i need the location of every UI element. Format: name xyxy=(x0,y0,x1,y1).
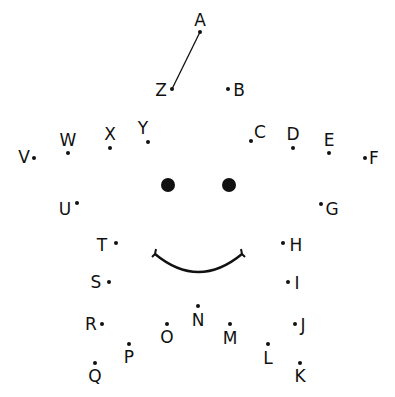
dot-y[interactable] xyxy=(146,140,150,144)
dot-j[interactable] xyxy=(293,322,297,326)
dot-e[interactable] xyxy=(327,151,331,155)
dot-z[interactable] xyxy=(170,87,174,91)
left-eye xyxy=(161,178,175,192)
label-v: V xyxy=(18,149,30,166)
dot-l[interactable] xyxy=(266,342,270,346)
label-a: A xyxy=(194,12,206,29)
label-s: S xyxy=(91,274,102,291)
label-z: Z xyxy=(155,82,167,99)
dot-o[interactable] xyxy=(165,322,169,326)
dot-t[interactable] xyxy=(114,241,118,245)
label-i: I xyxy=(294,275,299,292)
label-e: E xyxy=(324,132,335,149)
dot-c[interactable] xyxy=(249,139,253,143)
dot-x[interactable] xyxy=(108,146,112,150)
dot-b[interactable] xyxy=(226,87,230,91)
dot-n[interactable] xyxy=(196,304,200,308)
dot-g[interactable] xyxy=(319,202,323,206)
label-o: O xyxy=(160,329,173,346)
label-l: L xyxy=(263,350,272,367)
label-k: K xyxy=(294,368,305,385)
dot-h[interactable] xyxy=(281,241,285,245)
label-q: Q xyxy=(88,368,101,385)
label-r: R xyxy=(85,316,97,333)
smile-end-ticks xyxy=(152,249,245,257)
label-b: B xyxy=(233,82,245,99)
label-m: M xyxy=(223,330,238,347)
dot-a[interactable] xyxy=(198,30,202,34)
dot-u[interactable] xyxy=(75,201,79,205)
label-f: F xyxy=(369,150,379,167)
dot-r[interactable] xyxy=(100,322,104,326)
smile-mouth xyxy=(155,254,242,272)
dot-i[interactable] xyxy=(286,280,290,284)
dot-k[interactable] xyxy=(298,361,302,365)
dot-f[interactable] xyxy=(363,156,367,160)
dot-d[interactable] xyxy=(291,146,295,150)
label-x: X xyxy=(104,126,116,143)
label-h: H xyxy=(290,237,303,254)
label-t: T xyxy=(97,237,107,254)
label-u: U xyxy=(59,201,71,218)
label-p: P xyxy=(124,349,134,366)
line-a-to-z xyxy=(172,32,200,89)
dot-p[interactable] xyxy=(127,342,131,346)
puzzle-canvas: ABCDEFGHIJKLMNOPQRSTUVWXYZ xyxy=(0,0,395,397)
label-w: W xyxy=(60,132,77,149)
label-n: N xyxy=(192,312,205,329)
dot-m[interactable] xyxy=(228,322,232,326)
label-c: C xyxy=(254,124,266,141)
label-y: Y xyxy=(138,120,148,137)
right-eye xyxy=(222,178,236,192)
dot-q[interactable] xyxy=(93,361,97,365)
label-j: J xyxy=(300,317,305,334)
label-d: D xyxy=(286,126,299,143)
label-g: G xyxy=(325,201,338,218)
dot-s[interactable] xyxy=(107,280,111,284)
dot-v[interactable] xyxy=(32,156,36,160)
dot-w[interactable] xyxy=(66,151,70,155)
